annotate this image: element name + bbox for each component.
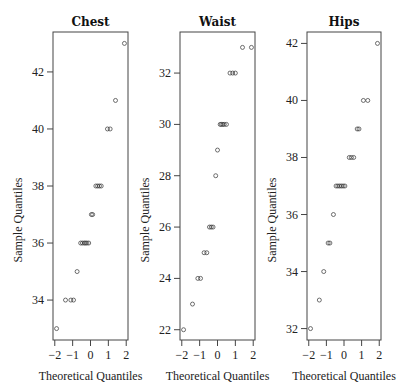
- x-tick-label: −2: [48, 348, 61, 362]
- x-tick-label: 1: [105, 348, 111, 362]
- data-point: [249, 45, 253, 49]
- y-tick-label: 28: [159, 169, 171, 183]
- panel-title: Waist: [198, 15, 237, 29]
- x-tick-label: 0: [215, 348, 221, 362]
- data-point: [309, 327, 313, 331]
- y-tick-label: 24: [159, 271, 171, 285]
- data-point: [317, 298, 321, 302]
- y-axis-label: Sample Quantiles: [138, 177, 152, 262]
- x-tick-label: 1: [232, 348, 238, 362]
- y-tick-label: 40: [286, 93, 298, 107]
- data-point: [75, 270, 79, 274]
- y-tick-label: 42: [32, 65, 44, 79]
- y-tick-label: 26: [159, 220, 171, 234]
- x-tick-label: −1: [320, 348, 333, 362]
- y-axis-label: Sample Quantiles: [265, 177, 279, 262]
- data-point: [191, 302, 195, 306]
- data-point: [64, 298, 68, 302]
- panel-title: Hips: [328, 15, 359, 29]
- data-point: [233, 71, 237, 75]
- y-tick-label: 40: [32, 122, 44, 136]
- plot-frame: [307, 32, 381, 340]
- x-tick-label: 2: [123, 348, 129, 362]
- panel-title: Chest: [71, 15, 110, 29]
- y-axis-label: Sample Quantiles: [11, 177, 25, 262]
- data-point: [108, 127, 112, 131]
- x-tick-label: −2: [175, 348, 188, 362]
- x-tick-label: 2: [376, 348, 382, 362]
- x-tick-label: −1: [66, 348, 79, 362]
- y-tick-label: 32: [286, 322, 298, 336]
- data-point: [361, 98, 365, 102]
- y-tick-label: 34: [286, 265, 298, 279]
- y-tick-label: 36: [32, 236, 44, 250]
- x-axis-label: Theoretical Quantiles: [292, 369, 396, 383]
- x-axis-label: Theoretical Quantiles: [39, 369, 143, 383]
- data-point: [322, 270, 326, 274]
- x-tick-label: 0: [88, 348, 94, 362]
- x-tick-label: −2: [302, 348, 315, 362]
- data-point: [122, 41, 126, 45]
- y-tick-label: 22: [159, 323, 171, 337]
- data-point: [216, 148, 220, 152]
- x-tick-label: 0: [341, 348, 347, 362]
- panel-chest: Chest3436384042−2−1012Theoretical Quanti…: [11, 15, 143, 383]
- y-tick-label: 38: [286, 150, 298, 164]
- panel-hips: Hips323436384042−2−1012Theoretical Quant…: [265, 15, 396, 383]
- x-tick-label: 2: [250, 348, 256, 362]
- y-tick-label: 38: [32, 179, 44, 193]
- data-point: [72, 298, 76, 302]
- data-point: [331, 213, 335, 217]
- data-point: [366, 98, 370, 102]
- y-tick-label: 30: [159, 117, 171, 131]
- panel-waist: Waist222426283032−2−1012Theoretical Quan…: [138, 15, 270, 383]
- data-point: [182, 328, 186, 332]
- data-point: [114, 98, 118, 102]
- x-tick-label: 1: [359, 348, 365, 362]
- data-point: [205, 251, 209, 255]
- x-tick-label: −1: [193, 348, 206, 362]
- data-point: [375, 41, 379, 45]
- data-point: [241, 45, 245, 49]
- y-tick-label: 42: [286, 36, 298, 50]
- data-point: [55, 327, 59, 331]
- plot-frame: [53, 32, 128, 340]
- y-tick-label: 36: [286, 208, 298, 222]
- data-point: [199, 276, 203, 280]
- x-axis-label: Theoretical Quantiles: [166, 369, 270, 383]
- plot-frame: [180, 32, 255, 340]
- data-point: [214, 174, 218, 178]
- qq-plot-figure: Chest3436384042−2−1012Theoretical Quanti…: [0, 0, 406, 392]
- y-tick-label: 34: [32, 293, 44, 307]
- y-tick-label: 32: [159, 66, 171, 80]
